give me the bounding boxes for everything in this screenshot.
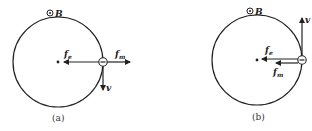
magnetic-field-out-icon — [247, 8, 253, 14]
field-label: B — [54, 9, 63, 19]
electron — [99, 58, 107, 66]
electron — [298, 56, 306, 64]
diagram-canvas: B fe fm v (a) B fe fm v (b) — [0, 0, 312, 131]
caption-b: (b) — [252, 112, 265, 122]
field-label: B — [254, 7, 263, 17]
nucleus-dot — [256, 59, 259, 62]
panel-b: B fe fm v (b) — [212, 7, 311, 122]
f-e-label: fe — [63, 49, 72, 60]
magnetic-field-out-icon — [47, 10, 53, 16]
f-e-label: fe — [264, 45, 273, 56]
v-label: v — [106, 83, 112, 93]
caption-a: (a) — [52, 113, 64, 123]
f-m-label: fm — [272, 67, 283, 78]
v-label: v — [305, 15, 311, 25]
f-m-label: fm — [114, 49, 125, 60]
nucleus-dot — [57, 61, 60, 64]
panel-a: B fe fm v (a) — [13, 9, 130, 123]
